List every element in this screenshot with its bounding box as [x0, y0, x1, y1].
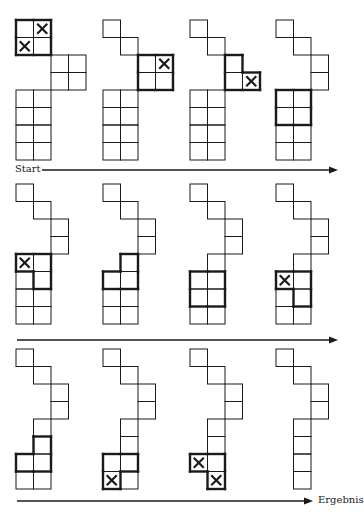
grid-cell [190, 20, 208, 38]
grid-cell [103, 125, 121, 143]
grid-cell [225, 55, 243, 73]
grid-cell [311, 402, 329, 420]
grid-cell [208, 289, 226, 307]
grid-cell [294, 307, 312, 325]
grid-cell [34, 272, 52, 290]
step-row [16, 184, 338, 344]
grid-cell [294, 38, 312, 56]
grid-cell [190, 307, 208, 325]
grid-cell [69, 73, 87, 91]
grid-panel [276, 20, 329, 160]
grid-cell [208, 143, 226, 161]
grid-cell [276, 184, 294, 202]
grid-cell [225, 73, 243, 91]
grid-cell [16, 472, 34, 490]
grid-panel [103, 184, 156, 324]
grid-panel [190, 184, 243, 324]
grid-cell [121, 108, 139, 126]
grid-cell [225, 219, 243, 237]
grid-cell [34, 437, 52, 455]
grid-cell [294, 472, 312, 490]
grid-cell [51, 237, 69, 255]
progress-arrow [42, 167, 338, 174]
grid-cell [190, 143, 208, 161]
grid-cell [103, 454, 121, 472]
grid-cell [294, 202, 312, 220]
grid-cell [190, 90, 208, 108]
grid-cell [225, 402, 243, 420]
grid-cell [121, 125, 139, 143]
grid-cell [208, 367, 226, 385]
grid-cell [16, 184, 34, 202]
grid-cell [51, 55, 69, 73]
grid-cell [103, 289, 121, 307]
grid-panel [16, 349, 69, 489]
grid-cell [294, 289, 312, 307]
grid-cell [311, 384, 329, 402]
grid-cell [51, 384, 69, 402]
grid-panel [190, 349, 243, 489]
grid-cell [294, 108, 312, 126]
grid-cell [208, 108, 226, 126]
grid-panel [190, 20, 260, 160]
grid-cell [34, 254, 52, 272]
grid-cell [51, 73, 69, 91]
x-mark-icon [20, 258, 30, 268]
grid-cell [34, 143, 52, 161]
grid-cell [34, 289, 52, 307]
grid-cell [276, 90, 294, 108]
grid-cell [51, 402, 69, 420]
grid-cell [34, 472, 52, 490]
grid-cell [138, 73, 156, 91]
x-mark-icon [37, 24, 47, 34]
grid-cell [121, 38, 139, 56]
grid-cell [311, 73, 329, 91]
grid-cell [121, 143, 139, 161]
grid-cell [138, 384, 156, 402]
grid-cell [16, 307, 34, 325]
grid-cell [190, 289, 208, 307]
grid-cell [208, 454, 226, 472]
grid-cell [121, 454, 139, 472]
grid-cell [294, 367, 312, 385]
grid-cell [121, 307, 139, 325]
grid-cell [276, 349, 294, 367]
start-label: Start [15, 163, 41, 174]
grid-cell [190, 125, 208, 143]
grid-cell [34, 90, 52, 108]
grid-cell [138, 55, 156, 73]
grid-cell [121, 367, 139, 385]
grid-cell [103, 143, 121, 161]
grid-cell [294, 272, 312, 290]
grid-cell [208, 419, 226, 437]
grid-cell [103, 90, 121, 108]
x-mark-icon [280, 275, 290, 285]
grid-cell [34, 367, 52, 385]
grid-cell [103, 272, 121, 290]
grid-panel [16, 184, 69, 324]
grid-cell [225, 384, 243, 402]
grid-panel [16, 20, 86, 160]
grid-cell [16, 289, 34, 307]
grid-cell [190, 184, 208, 202]
grid-cell [311, 55, 329, 73]
grid-cell [34, 307, 52, 325]
grid-cell [294, 437, 312, 455]
x-mark-icon [159, 59, 169, 69]
grid-cell [16, 454, 34, 472]
grid-cell [16, 272, 34, 290]
grid-cell [34, 125, 52, 143]
progress-arrow [17, 337, 338, 344]
grid-panel [103, 349, 156, 489]
grid-panel [103, 20, 173, 160]
grid-cell [276, 20, 294, 38]
grid-cell [190, 272, 208, 290]
grid-cell [208, 254, 226, 272]
grid-cell [294, 419, 312, 437]
grid-cell [276, 108, 294, 126]
grid-cell [138, 402, 156, 420]
grid-cell [294, 90, 312, 108]
grid-cell [208, 437, 226, 455]
x-mark-icon [211, 475, 221, 485]
